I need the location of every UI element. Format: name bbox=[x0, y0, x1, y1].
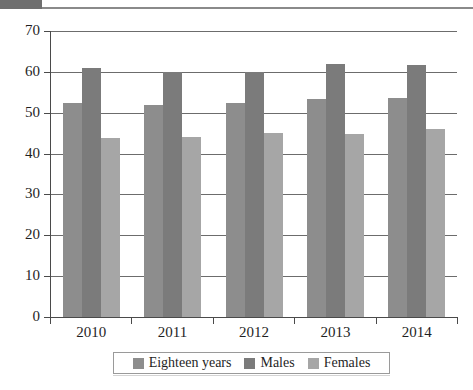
x-tick-label-2012: 2012 bbox=[214, 324, 294, 341]
bar-2010-females[interactable] bbox=[101, 138, 120, 317]
y-tick-mark-20 bbox=[44, 235, 51, 236]
bar-2011-females[interactable] bbox=[182, 137, 201, 317]
x-tick-label-2011: 2011 bbox=[133, 324, 213, 341]
bar-2014-females[interactable] bbox=[426, 129, 445, 317]
bar-2011-males[interactable] bbox=[163, 72, 182, 317]
bar-group-2010 bbox=[63, 31, 120, 317]
y-tick-mark-30 bbox=[44, 194, 51, 195]
bar-chart: 010203040506070 20102011201220132014 Eig… bbox=[0, 14, 473, 390]
bar-group-2013 bbox=[307, 31, 364, 317]
y-axis-tick-labels: 010203040506070 bbox=[0, 14, 40, 334]
y-tick-mark-50 bbox=[44, 113, 51, 114]
x-tick-mark-1 bbox=[213, 317, 214, 324]
y-tick-label-40: 40 bbox=[4, 146, 40, 161]
gridline-0 bbox=[50, 317, 457, 318]
bar-2010-eighteen-years[interactable] bbox=[63, 103, 82, 317]
legend-label: Eighteen years bbox=[149, 356, 232, 370]
chart-legend: Eighteen yearsMalesFemales bbox=[113, 352, 390, 374]
x-tick-mark-3 bbox=[376, 317, 377, 324]
y-tick-label-20: 20 bbox=[4, 227, 40, 242]
x-tick-mark-origin bbox=[50, 317, 51, 324]
page-header-artifact-block bbox=[0, 0, 42, 9]
y-tick-label-10: 10 bbox=[4, 268, 40, 283]
page-header-artifact-rule bbox=[42, 7, 473, 9]
y-tick-label-60: 60 bbox=[4, 64, 40, 79]
bar-group-2012 bbox=[226, 31, 283, 317]
bar-2012-eighteen-years[interactable] bbox=[226, 103, 245, 317]
legend-label: Males bbox=[260, 356, 294, 370]
legend-item-females[interactable]: Females bbox=[308, 356, 371, 370]
bar-group-2014 bbox=[388, 31, 445, 317]
y-tick-label-0: 0 bbox=[4, 309, 40, 324]
bar-2014-males[interactable] bbox=[407, 65, 426, 317]
x-tick-mark-0 bbox=[131, 317, 132, 324]
x-tick-mark-4 bbox=[457, 317, 458, 324]
legend-item-eighteen-years[interactable]: Eighteen years bbox=[133, 356, 232, 370]
legend-swatch-icon-0 bbox=[133, 358, 144, 369]
y-tick-mark-40 bbox=[44, 154, 51, 155]
y-tick-mark-10 bbox=[44, 276, 51, 277]
bar-2013-eighteen-years[interactable] bbox=[307, 99, 326, 317]
legend-swatch-icon-2 bbox=[308, 358, 319, 369]
legend-item-males[interactable]: Males bbox=[244, 356, 294, 370]
bar-2012-males[interactable] bbox=[245, 72, 264, 317]
bar-group-2011 bbox=[144, 31, 201, 317]
legend-shadow-artifact bbox=[113, 375, 390, 376]
y-tick-label-30: 30 bbox=[4, 186, 40, 201]
x-tick-mark-2 bbox=[294, 317, 295, 324]
bar-2013-females[interactable] bbox=[345, 134, 364, 317]
bar-2010-males[interactable] bbox=[82, 68, 101, 317]
x-tick-label-2014: 2014 bbox=[377, 324, 457, 341]
plot-area bbox=[50, 31, 457, 317]
bar-2014-eighteen-years[interactable] bbox=[388, 98, 407, 317]
y-tick-mark-60 bbox=[44, 72, 51, 73]
x-tick-label-2010: 2010 bbox=[51, 324, 131, 341]
y-tick-label-70: 70 bbox=[4, 23, 40, 38]
bar-2011-eighteen-years[interactable] bbox=[144, 105, 163, 317]
bar-2013-males[interactable] bbox=[326, 64, 345, 317]
bar-2012-females[interactable] bbox=[264, 133, 283, 317]
y-tick-label-50: 50 bbox=[4, 105, 40, 120]
legend-swatch-icon-1 bbox=[244, 358, 255, 369]
legend-label: Females bbox=[324, 356, 371, 370]
y-tick-mark-70 bbox=[44, 31, 51, 32]
y-tick-mark-0 bbox=[44, 317, 51, 318]
x-tick-label-2013: 2013 bbox=[295, 324, 375, 341]
